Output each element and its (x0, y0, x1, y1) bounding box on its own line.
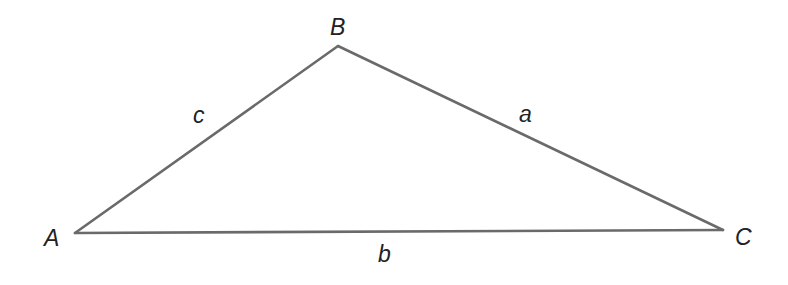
vertex-a-label: A (42, 225, 59, 251)
vertex-b-label: B (330, 14, 345, 40)
vertex-c-label: C (735, 224, 752, 250)
side-a-line (338, 46, 723, 230)
side-a-label: a (519, 101, 532, 127)
side-b-label: b (378, 241, 391, 267)
side-c-label: c (193, 102, 205, 128)
side-c-line (75, 46, 338, 233)
side-b-line (75, 230, 723, 233)
triangle-diagram: A B C c a b (0, 0, 788, 285)
